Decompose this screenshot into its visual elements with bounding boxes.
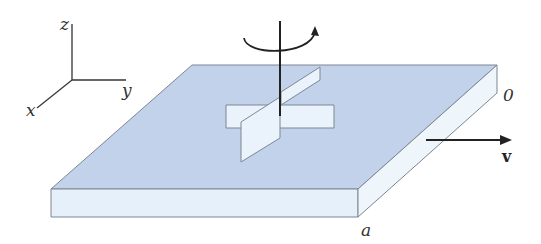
coordinate-axes: [37, 24, 126, 108]
y-axis-label: y: [121, 80, 132, 100]
x-axis-label: x: [26, 100, 36, 120]
slab-front-face: [51, 189, 358, 217]
z-axis-label: z: [59, 14, 70, 34]
corner-label-0: 0: [503, 85, 514, 105]
diagram-canvas: z y x v 0 a: [0, 0, 541, 244]
rotation-arrow-icon: [244, 26, 319, 51]
velocity-label: v: [501, 147, 512, 166]
corner-label-a: a: [361, 220, 371, 240]
